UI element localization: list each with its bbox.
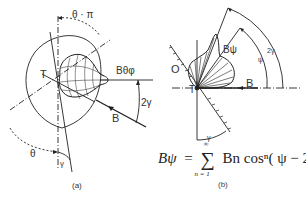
formula-equals: =: [184, 150, 192, 166]
sum-lower: n = 1: [194, 170, 209, 178]
label-2gamma-a: 2γ: [141, 97, 152, 108]
t-line: [42, 74, 95, 102]
sum-upper: ∞: [203, 140, 208, 148]
label-O: O: [171, 63, 180, 75]
label-gamma-a: γ: [60, 159, 64, 168]
caption-a: (a): [72, 181, 82, 190]
label-T-a: T: [40, 68, 47, 80]
sum-symbol: ∑ ∞ n = 1: [200, 148, 214, 171]
label-T-b: T: [189, 84, 195, 95]
label-B-b: B: [246, 77, 253, 89]
label-B-psi: Bψ: [223, 44, 237, 55]
caption-b: (b): [218, 180, 228, 189]
label-B-theta-phi: Bθφ: [116, 65, 135, 76]
formula-lhs: Bψ: [158, 150, 176, 166]
label-B-a: B: [112, 112, 119, 124]
gamma-arc-b: [197, 131, 226, 140]
theta-pi-arc: [58, 18, 100, 36]
b-psi-lobe: [188, 34, 234, 88]
psi-arc: [240, 28, 267, 88]
formula: Bψ = ∑ ∞ n = 1 Bn cosⁿ( ψ − 2γ): [158, 148, 306, 171]
label-2gamma-b: 2γ: [267, 47, 275, 55]
label-theta: θ: [30, 148, 36, 159]
formula-term: Bn cosⁿ( ψ − 2γ): [222, 150, 306, 166]
panel-b: [169, 8, 302, 140]
label-theta-pi: θ · π: [72, 9, 93, 20]
two-gamma-arc: [136, 80, 139, 123]
label-psi: ψ: [258, 56, 263, 64]
